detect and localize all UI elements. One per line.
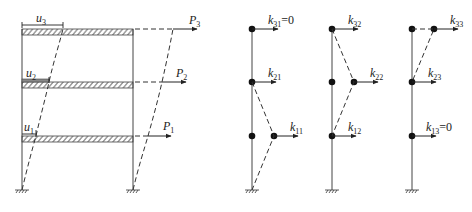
label-u2: u2 [26, 67, 36, 82]
floor-beam-3 [22, 29, 133, 35]
label-p2: P2 [176, 67, 187, 82]
label-k13: k13=0 [426, 121, 452, 136]
stiffness-diagram-2 [325, 26, 378, 193]
stiffness-diagram-1 [245, 26, 298, 193]
diagram-canvas [0, 0, 472, 212]
label-k22: k22 [370, 67, 383, 82]
floor-beam-1 [22, 136, 133, 142]
label-k32: k32 [348, 14, 361, 29]
fixed-support-icon [126, 190, 140, 193]
fixed-support-icon [325, 190, 339, 193]
label-u3: u3 [36, 12, 46, 27]
label-u1: u1 [24, 121, 34, 136]
label-k23: k23 [428, 67, 441, 82]
label-k31: k31=0 [268, 14, 294, 29]
label-p1: P1 [163, 120, 174, 135]
stiffness-diagram-3 [405, 26, 458, 193]
label-k21: k21 [268, 67, 281, 82]
fixed-support-icon [405, 190, 419, 193]
label-p3: P3 [189, 14, 200, 29]
deflected-shape-left [22, 29, 63, 190]
floor-beam-2 [22, 82, 133, 88]
label-k12: k12 [348, 121, 361, 136]
label-k11: k11 [290, 121, 303, 136]
deflected-shape-right [133, 29, 173, 190]
label-k33: k33 [450, 14, 463, 29]
shear-frame [15, 22, 197, 193]
fixed-support-icon [15, 190, 29, 193]
fixed-support-icon [245, 190, 259, 193]
